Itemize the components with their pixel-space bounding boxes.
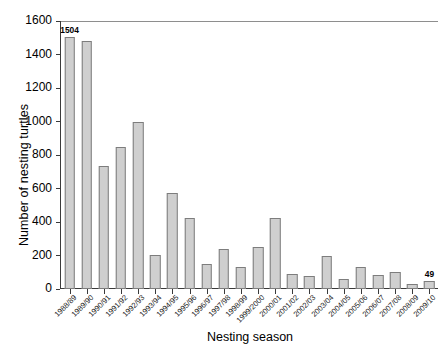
bar <box>356 267 367 289</box>
bar-series: 150449 <box>61 21 438 289</box>
bar-value-label: 49 <box>425 269 434 279</box>
bar <box>133 122 144 290</box>
bar <box>236 267 247 289</box>
bar <box>167 193 178 289</box>
bar-slot <box>95 21 112 289</box>
bar <box>270 218 281 289</box>
bar-slot <box>250 21 267 289</box>
y-axis-title: Number of nesting turtles <box>17 65 31 285</box>
x-axis-tick-labels: 1988/891989/901990/911991/921992/931993/… <box>61 293 438 333</box>
bar <box>150 255 161 289</box>
bar-slot <box>215 21 232 289</box>
bar <box>219 249 230 289</box>
bar <box>81 41 92 289</box>
y-tick-mark <box>56 121 61 122</box>
bar <box>253 247 264 289</box>
bar <box>116 147 127 289</box>
bar-slot <box>284 21 301 289</box>
y-tick-mark <box>56 21 61 22</box>
bar-slot <box>387 21 404 289</box>
bar-slot <box>301 21 318 289</box>
y-tick-label: 1400 <box>25 47 52 61</box>
bar-slot <box>112 21 129 289</box>
bar <box>287 274 298 289</box>
bar <box>321 256 332 290</box>
y-tick-mark <box>56 255 61 256</box>
y-tick-mark <box>56 188 61 189</box>
bar <box>424 281 435 289</box>
y-tick-label: 800 <box>32 147 52 161</box>
bar-chart-figure: Number of nesting turtles 150449 1988/89… <box>0 0 448 353</box>
bar-value-label: 1504 <box>60 25 79 35</box>
bar-slot <box>130 21 147 289</box>
bar <box>184 218 195 289</box>
bar-slot <box>318 21 335 289</box>
bar <box>201 264 212 289</box>
bar-slot <box>352 21 369 289</box>
bar-slot <box>335 21 352 289</box>
y-tick-label: 600 <box>32 181 52 195</box>
y-tick-label: 1000 <box>25 114 52 128</box>
y-tick-mark <box>56 155 61 156</box>
bar-slot <box>232 21 249 289</box>
bar-slot: 1504 <box>61 21 78 289</box>
bar-slot: 49 <box>421 21 438 289</box>
bar-slot <box>78 21 95 289</box>
bar-slot <box>164 21 181 289</box>
bar <box>304 276 315 289</box>
bar <box>338 279 349 289</box>
y-tick-label: 0 <box>45 281 52 295</box>
bar-slot <box>369 21 386 289</box>
y-tick-label: 200 <box>32 248 52 262</box>
y-tick-mark <box>56 289 61 290</box>
y-tick-label: 400 <box>32 214 52 228</box>
bar-slot <box>147 21 164 289</box>
y-tick-label: 1600 <box>25 13 52 27</box>
bar <box>99 166 110 289</box>
bar-slot <box>181 21 198 289</box>
y-tick-label: 1200 <box>25 80 52 94</box>
bar <box>390 272 401 289</box>
x-axis-title: Nesting season <box>60 330 440 344</box>
bar-slot <box>267 21 284 289</box>
y-tick-mark <box>56 54 61 55</box>
bar <box>64 37 75 289</box>
y-tick-mark <box>56 222 61 223</box>
bar-slot <box>404 21 421 289</box>
bar <box>373 275 384 289</box>
y-tick-mark <box>56 88 61 89</box>
bar-slot <box>198 21 215 289</box>
